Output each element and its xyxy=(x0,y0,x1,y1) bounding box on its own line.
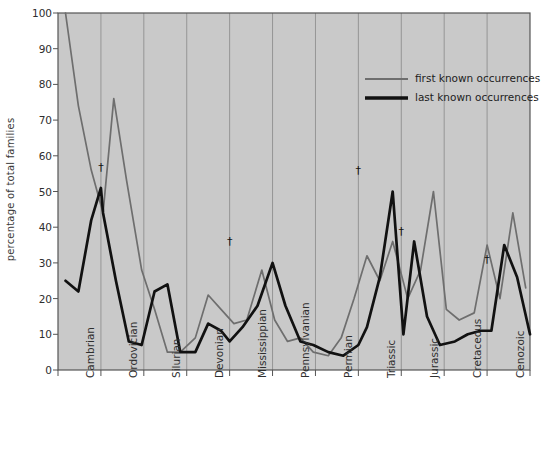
x-tick-label-cenozoic: Cenozoic xyxy=(514,331,526,379)
dagger-marker-2: † xyxy=(356,165,362,176)
x-tick-label-mississippian: Mississippian xyxy=(256,309,268,378)
dagger-marker-4: † xyxy=(484,254,490,265)
y-tick-label: 70 xyxy=(16,114,52,126)
dagger-marker-0: † xyxy=(98,161,104,172)
y-tick-label: 90 xyxy=(16,43,52,55)
y-tick-label: 30 xyxy=(16,257,52,269)
y-tick-label: 10 xyxy=(16,328,52,340)
x-tick-label-silurian: Silurian xyxy=(170,339,182,378)
y-tick-label: 20 xyxy=(16,293,52,305)
dagger-marker-1: † xyxy=(227,236,233,247)
y-tick-label: 100 xyxy=(16,7,52,19)
x-tick-label-cretaceous: Cretaceous xyxy=(471,319,483,378)
x-tick-label-cambrian: Cambrian xyxy=(84,327,96,378)
y-tick-label: 60 xyxy=(16,150,52,162)
chart-canvas xyxy=(0,0,542,452)
y-tick-label: 40 xyxy=(16,221,52,233)
y-tick-label: 80 xyxy=(16,78,52,90)
x-tick-label-permian: Permian xyxy=(342,335,354,378)
chart-figure: percentage of total families010203040506… xyxy=(0,0,542,452)
x-tick-label-pennsylvanian: Pennsylvanian xyxy=(299,302,311,378)
y-tick-label: 50 xyxy=(16,186,52,198)
x-tick-label-jurassic: Jurassic xyxy=(428,338,440,378)
dagger-marker-3: † xyxy=(399,225,405,236)
x-tick-label-triassic: Triassic xyxy=(385,340,397,378)
x-tick-label-ordovician: Ordovician xyxy=(127,322,139,378)
y-axis-title: percentage of total families xyxy=(5,99,16,279)
legend-label-1: last known occurrences xyxy=(415,91,539,103)
y-tick-label: 0 xyxy=(16,364,52,376)
legend-label-0: first known occurrences xyxy=(415,72,540,84)
x-tick-label-devonian: Devonian xyxy=(213,328,225,378)
